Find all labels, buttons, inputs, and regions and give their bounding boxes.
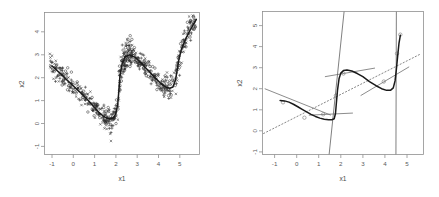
scatter-point-circle — [131, 38, 134, 41]
scatter-point-plus — [140, 57, 143, 60]
right-xtick-2: 2 — [339, 160, 343, 167]
scatter-point-plus — [58, 77, 61, 80]
scatter-point-x — [166, 71, 168, 73]
left-xtick-2: 2 — [114, 160, 118, 167]
scatter-point-x — [55, 60, 57, 62]
local-linear-segment-1 — [265, 89, 331, 115]
scatter-point-plus — [84, 86, 87, 89]
scatter-point-x — [170, 84, 172, 86]
left-plot-svg: 4 3 2 1 0 -1 x2 -1 0 1 2 — [0, 0, 220, 197]
left-scatter-panel: 4 3 2 1 0 -1 x2 -1 0 1 2 — [0, 0, 220, 197]
right-xtick-0: 0 — [295, 160, 299, 167]
right-y-axis: 5 4 3 2 1 0 -1 — [251, 23, 263, 154]
scatter-point-x — [75, 95, 77, 97]
scatter-point-plus — [183, 29, 186, 32]
local-linear-segment-3 — [325, 68, 375, 77]
left-x-axis-title: x1 — [119, 175, 126, 182]
right-ytick-4: 4 — [251, 44, 258, 48]
scatter-point-circle — [66, 89, 69, 92]
left-ytick-1: 1 — [33, 98, 40, 102]
right-xtick-1: 1 — [317, 160, 321, 167]
scatter-point-x — [110, 140, 112, 142]
scatter-point-x — [106, 128, 108, 130]
left-xtick-neg1: -1 — [49, 160, 55, 167]
scatter-point-plus — [138, 68, 141, 71]
right-model-panel: 5 4 3 2 1 0 -1 x2 -1 0 1 — [219, 0, 439, 197]
left-xtick-1: 1 — [93, 160, 97, 167]
left-xtick-4: 4 — [157, 160, 161, 167]
scatter-point-x — [74, 83, 76, 85]
right-y-axis-title: x2 — [236, 79, 243, 86]
scatter-point-plus — [175, 82, 178, 85]
scatter-point-circle — [61, 84, 64, 87]
left-y-axis: 4 3 2 1 0 -1 — [33, 30, 45, 150]
scatter-point-x — [120, 56, 122, 58]
left-ytick-neg1: -1 — [33, 143, 40, 149]
scatter-point-x — [77, 84, 79, 86]
left-ytick-0: 0 — [33, 121, 40, 125]
left-x-axis: -1 0 1 2 3 4 5 — [49, 155, 182, 168]
scatter-point-x — [52, 78, 54, 80]
scatter-point-x — [51, 55, 53, 57]
scatter-point-circle — [172, 79, 175, 82]
left-y-axis-title: x2 — [18, 80, 25, 87]
scatter-point-circle — [87, 111, 90, 114]
scatter-point-circle — [166, 80, 169, 83]
right-ytick-5: 5 — [251, 23, 258, 27]
right-ytick-3: 3 — [251, 65, 258, 69]
scatter-point-x — [80, 104, 82, 106]
right-ytick-neg1: -1 — [251, 149, 258, 155]
figure-root: 4 3 2 1 0 -1 x2 -1 0 1 2 — [0, 0, 439, 197]
scatter-point-circle — [189, 36, 192, 39]
right-x-axis-title: x1 — [340, 175, 347, 182]
scatter-point-x — [163, 96, 165, 98]
scatter-point-circle — [151, 65, 154, 68]
scatter-point-circle — [107, 106, 110, 109]
scatter-point-plus — [190, 31, 193, 34]
right-xtick-4: 4 — [383, 160, 387, 167]
left-xtick-3: 3 — [135, 160, 139, 167]
scatter-point-plus — [102, 104, 105, 107]
scatter-point-x — [170, 96, 172, 98]
scatter-point-x — [58, 80, 60, 82]
scatter-point-plus — [189, 39, 192, 42]
scatter-point-x — [117, 119, 119, 121]
right-xtick-3: 3 — [361, 160, 365, 167]
scatter-point-circle — [122, 49, 125, 52]
local-linear-segments — [265, 33, 409, 119]
scatter-point-x — [125, 42, 127, 44]
left-xtick-5: 5 — [178, 160, 182, 167]
scatter-point-x — [148, 60, 150, 62]
left-ytick-3: 3 — [33, 53, 40, 57]
scatter-point-x — [169, 79, 171, 81]
scatter-point-x — [49, 53, 51, 55]
right-ytick-1: 1 — [251, 108, 258, 112]
right-xtick-5: 5 — [405, 160, 409, 167]
scatter-point-plus — [54, 80, 57, 83]
scatter-point-circle — [107, 110, 110, 113]
scatter-point-x — [188, 15, 190, 17]
left-ytick-2: 2 — [33, 75, 40, 79]
scatter-point-circle — [154, 67, 157, 70]
left-xtick-0: 0 — [72, 160, 76, 167]
scatter-point-x — [176, 79, 178, 81]
scatter-point-x — [89, 91, 91, 93]
scatter-point-circle — [156, 88, 159, 91]
scatter-point-plus — [178, 74, 181, 77]
right-plot-svg: 5 4 3 2 1 0 -1 x2 -1 0 1 — [219, 0, 439, 197]
scatter-point-x — [127, 42, 129, 44]
right-xtick-neg1: -1 — [272, 160, 278, 167]
scatter-point-x — [131, 44, 133, 46]
scatter-point-circle — [99, 116, 102, 119]
scatter-point-circle — [115, 122, 118, 125]
scatter-point-x — [103, 127, 105, 129]
vertical-boundary-line-1 — [329, 12, 344, 155]
scatter-point-plus — [50, 61, 53, 64]
scatter-points — [49, 14, 197, 142]
scatter-point-plus — [169, 74, 172, 77]
right-ytick-2: 2 — [251, 86, 258, 90]
scatter-point-circle — [129, 34, 132, 37]
scatter-point-circle — [129, 65, 132, 68]
scatter-point-circle — [70, 71, 73, 74]
scatter-point-circle — [186, 21, 189, 24]
